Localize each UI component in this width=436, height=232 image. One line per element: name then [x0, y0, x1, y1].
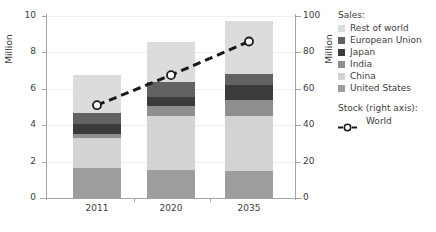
- legend-item-label: United States: [350, 83, 411, 93]
- legend-swatch-icon: [338, 85, 345, 92]
- legend-item-label: Rest of world: [350, 23, 409, 33]
- y-axis-right-tick-label: 60: [303, 83, 327, 93]
- legend-item-united-states[interactable]: United States: [338, 83, 436, 93]
- x-axis-minor-tick: [210, 198, 211, 202]
- y-axis-right-tick-mark: [296, 125, 301, 126]
- y-axis-right-tick-label: 100: [303, 10, 327, 20]
- legend: Sales: Rest of worldEuropean UnionJapanI…: [338, 10, 436, 128]
- legend-sales-items: Rest of worldEuropean UnionJapanIndiaChi…: [338, 23, 436, 93]
- legend-stock-items: World: [338, 116, 436, 126]
- x-axis-tick-label: 2035: [219, 203, 279, 213]
- stock-line-marker: [167, 71, 175, 79]
- y-axis-right-tick-label: 20: [303, 156, 327, 166]
- y-axis-left-tick-label: 6: [10, 83, 36, 93]
- stock-line-marker: [93, 101, 101, 109]
- x-axis-minor-tick: [134, 198, 135, 202]
- chart-container: Million Million 0246810 020406080100 201…: [0, 0, 436, 232]
- y-axis-left-tick-label: 2: [10, 156, 36, 166]
- legend-item-world[interactable]: World: [338, 116, 436, 126]
- legend-item-label: Japan: [350, 47, 375, 57]
- y-axis-right-line: [295, 14, 296, 200]
- x-axis-line: [40, 198, 302, 199]
- legend-item-japan[interactable]: Japan: [338, 47, 436, 57]
- legend-item-label: India: [350, 59, 372, 69]
- y-axis-left-tick-mark: [42, 198, 47, 199]
- y-axis-left-tick-label: 8: [10, 46, 36, 56]
- y-axis-right-tick-mark: [296, 16, 301, 17]
- legend-item-label: European Union: [350, 35, 422, 45]
- y-axis-right-tick-label: 0: [303, 192, 327, 202]
- y-axis-right-tick-mark: [296, 198, 301, 199]
- y-axis-right-tick-label: 80: [303, 46, 327, 56]
- y-axis-left-tick-label: 4: [10, 119, 36, 129]
- stock-line-marker: [245, 37, 253, 45]
- legend-swatch-icon: [338, 37, 345, 44]
- legend-dashed-line-marker-icon: [338, 117, 357, 126]
- legend-item-label: World: [366, 116, 392, 126]
- legend-stock-block: Stock (right axis): World: [338, 103, 436, 126]
- y-axis-left-tick-label: 0: [10, 192, 36, 202]
- legend-item-india[interactable]: India: [338, 59, 436, 69]
- y-axis-right-tick-mark: [296, 52, 301, 53]
- stock-line-series: [47, 16, 295, 198]
- legend-swatch-icon: [338, 49, 345, 56]
- legend-sales-heading: Sales:: [338, 10, 436, 20]
- legend-item-label: China: [350, 71, 376, 81]
- plot-area: [47, 16, 295, 198]
- x-axis-tick-label: 2020: [141, 203, 201, 213]
- legend-item-china[interactable]: China: [338, 71, 436, 81]
- y-axis-right-tick-mark: [296, 89, 301, 90]
- y-axis-right-tick-label: 40: [303, 119, 327, 129]
- legend-item-european-union[interactable]: European Union: [338, 35, 436, 45]
- legend-item-rest-of-world[interactable]: Rest of world: [338, 23, 436, 33]
- y-axis-left-tick-label: 10: [10, 10, 36, 20]
- x-axis-tick-label: 2011: [67, 203, 127, 213]
- legend-swatch-icon: [338, 61, 345, 68]
- legend-swatch-icon: [338, 25, 345, 32]
- legend-stock-heading: Stock (right axis):: [338, 103, 436, 113]
- legend-swatch-icon: [338, 73, 345, 80]
- y-axis-right-tick-mark: [296, 162, 301, 163]
